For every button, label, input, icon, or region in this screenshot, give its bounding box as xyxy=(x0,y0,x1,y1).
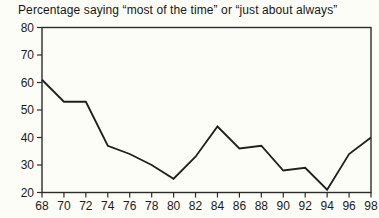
x-tick-label: 94 xyxy=(320,199,334,213)
x-tick-label: 76 xyxy=(123,199,137,213)
x-tick-label: 70 xyxy=(57,199,71,213)
y-tick-label: 80 xyxy=(21,21,35,35)
x-tick-label: 80 xyxy=(167,199,181,213)
x-tick-label: 84 xyxy=(211,199,225,213)
x-axis-ticks xyxy=(42,193,371,198)
y-tick-label: 40 xyxy=(21,131,35,145)
x-tick-label: 82 xyxy=(189,199,203,213)
trust-line-chart: 20304050607080 6870727476788082848688909… xyxy=(0,0,379,218)
plot-border xyxy=(42,28,371,193)
x-tick-label: 72 xyxy=(79,199,93,213)
plot-area-box xyxy=(42,28,371,193)
x-tick-label: 74 xyxy=(101,199,115,213)
y-axis-labels: 20304050607080 xyxy=(21,21,35,200)
x-tick-label: 86 xyxy=(233,199,247,213)
chart-figure: Percentage saying “most of the time” or … xyxy=(0,0,379,218)
y-tick-label: 30 xyxy=(21,158,35,172)
x-tick-label: 98 xyxy=(364,199,378,213)
y-tick-label: 50 xyxy=(21,103,35,117)
x-tick-label: 68 xyxy=(35,199,49,213)
x-axis-labels: 68707274767880828486889092949698 xyxy=(35,199,378,213)
y-axis-ticks xyxy=(37,28,42,193)
x-tick-label: 88 xyxy=(255,199,269,213)
x-tick-label: 96 xyxy=(342,199,356,213)
x-tick-label: 78 xyxy=(145,199,159,213)
y-tick-label: 20 xyxy=(21,186,35,200)
x-tick-label: 90 xyxy=(277,199,291,213)
trust-series-line xyxy=(42,80,371,190)
y-tick-label: 60 xyxy=(21,76,35,90)
x-tick-label: 92 xyxy=(299,199,313,213)
y-tick-label: 70 xyxy=(21,48,35,62)
data-line xyxy=(42,80,371,190)
